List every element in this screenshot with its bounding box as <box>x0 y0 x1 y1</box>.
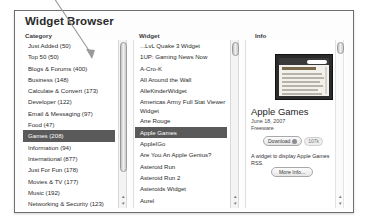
preview-scrollbar <box>325 67 328 94</box>
widget-list-item[interactable]: AppleIGo <box>135 138 227 149</box>
category-scrollbar[interactable]: ▴ ▾ <box>118 40 127 208</box>
info-scrollbar-thumb[interactable] <box>337 42 344 54</box>
category-list[interactable]: Just Added (50)Top 50 (50)Blogs & Forums… <box>23 40 115 208</box>
category-list-item[interactable]: Music (192) <box>23 187 115 198</box>
category-list-item[interactable]: Just For Fun (178) <box>23 164 115 175</box>
preview-text-line <box>282 73 322 75</box>
download-circle-icon <box>292 139 297 144</box>
category-list-item[interactable]: Calculate & Convert (173) <box>23 85 115 96</box>
download-button-label: Download <box>268 138 290 144</box>
info-pane: Apple Games June 18, 2007 Freeware Downl… <box>247 40 345 208</box>
info-description: A widget to display Apple Games RSS. <box>251 153 339 167</box>
category-list-item[interactable]: Developer (122) <box>23 96 115 107</box>
widget-preview-content <box>279 58 329 96</box>
widget-preview-thumbnail[interactable] <box>275 54 333 100</box>
category-list-item[interactable]: Email & Messaging (97) <box>23 108 115 119</box>
divider-widget-info <box>245 40 246 208</box>
category-list-item[interactable]: Networking & Security (123) <box>23 198 115 208</box>
category-scroll-down-arrow[interactable]: ▾ <box>120 200 127 207</box>
info-scrollbar[interactable]: ▴ ▾ <box>335 40 344 208</box>
widget-list[interactable]: ...LvL Quake 3 Widget1UP: Gaming News No… <box>135 40 227 208</box>
widget-list-item[interactable]: Apple Games <box>135 127 227 138</box>
widget-list-item[interactable]: Asteroid Run <box>135 161 227 172</box>
category-list-item[interactable]: Food (47) <box>23 119 115 130</box>
category-list-item[interactable]: International (877) <box>23 153 115 164</box>
category-list-item[interactable]: Movies & TV (177) <box>23 176 115 187</box>
category-list-item[interactable]: Information (94) <box>23 142 115 153</box>
column-header-info: Info <box>255 32 266 39</box>
widget-scrollbar-thumb[interactable] <box>232 42 239 56</box>
widget-list-item[interactable]: ...LvL Quake 3 Widget <box>135 40 227 51</box>
download-button[interactable]: Download <box>263 136 302 146</box>
info-scroll-up-arrow[interactable]: ▴ <box>337 193 344 200</box>
column-header-category: Category <box>25 32 52 39</box>
widget-list-item[interactable]: AlleKinderWidget <box>135 85 227 96</box>
widget-list-item[interactable]: All Around the Wall <box>135 74 227 85</box>
widget-scrollbar[interactable]: ▴ ▾ <box>230 40 239 208</box>
widget-list-item[interactable]: A-Cro-K <box>135 63 227 74</box>
widget-scroll-up-arrow[interactable]: ▴ <box>232 193 239 200</box>
download-row: Download 107k <box>263 136 323 146</box>
category-list-item[interactable]: Top 50 (50) <box>23 51 115 62</box>
widget-list-item[interactable]: Asteroid Run 2 <box>135 172 227 183</box>
column-header-widget: Widget <box>139 32 160 39</box>
category-list-item[interactable]: Just Added (50) <box>23 40 115 51</box>
info-widget-title: Apple Games <box>251 106 309 117</box>
category-list-item[interactable]: Games (208) <box>23 130 115 141</box>
preview-titlebar <box>279 58 329 65</box>
preview-search-field <box>307 60 327 64</box>
widget-scroll-down-arrow[interactable]: ▾ <box>232 200 239 207</box>
widget-list-item[interactable]: Americas Army Full Stat Viewer Widget <box>135 96 227 115</box>
preview-text-line <box>282 77 324 79</box>
widget-list-item[interactable]: Are You An Apple Genius? <box>135 149 227 160</box>
more-info-button[interactable]: More Info... <box>271 167 313 177</box>
page-title: Widget Browser <box>25 15 114 27</box>
preview-heading-bar <box>282 67 316 70</box>
screenshot-stage: Widget Browser Category Widget Info Just… <box>0 0 366 219</box>
info-widget-license: Freeware <box>251 125 274 131</box>
preview-text-line <box>282 89 318 91</box>
info-widget-date: June 18, 2007 <box>251 118 285 124</box>
download-size-badge: 107k <box>304 137 323 146</box>
widget-pane: ...LvL Quake 3 Widget1UP: Gaming News No… <box>135 40 241 208</box>
widget-list-item[interactable]: autok: Autoquartett Widget <box>135 206 227 208</box>
category-scrollbar-thumb[interactable] <box>120 42 127 172</box>
widget-list-item[interactable]: 1UP: Gaming News Now <box>135 51 227 62</box>
category-list-item[interactable]: Business (148) <box>23 74 115 85</box>
info-scroll-down-arrow[interactable]: ▾ <box>337 200 344 207</box>
preview-text-line <box>282 81 320 83</box>
preview-text-line <box>282 93 322 95</box>
divider-category-widget <box>133 40 134 208</box>
widget-list-item[interactable]: Ane Rouge <box>135 115 227 126</box>
category-scroll-up-arrow[interactable]: ▴ <box>120 193 127 200</box>
category-list-item[interactable]: Blogs & Forums (400) <box>23 63 115 74</box>
category-pane: Just Added (50)Top 50 (50)Blogs & Forums… <box>23 40 129 208</box>
widget-list-item[interactable]: Asteroids Widget <box>135 183 227 194</box>
widget-browser-window: Widget Browser Category Widget Info Just… <box>14 10 354 213</box>
preview-text-line <box>282 85 323 87</box>
widget-list-item[interactable]: Aurel <box>135 195 227 206</box>
